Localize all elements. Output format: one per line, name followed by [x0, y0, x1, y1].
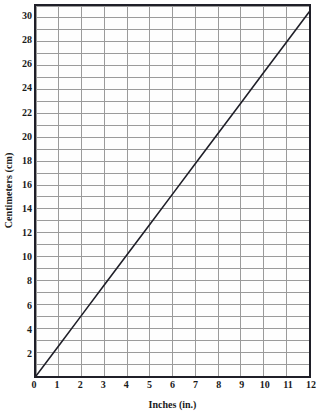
y-axis-tick-label: 26 [22, 59, 32, 69]
y-axis-tick-label: 22 [22, 108, 32, 118]
y-axis-tick-label-group: 24681012141618202224262830 [14, 4, 32, 378]
y-axis-title-label: Centimeters (cm) [4, 152, 15, 228]
y-axis-tick-label: 4 [27, 325, 32, 335]
y-axis-tick-label: 14 [22, 204, 32, 214]
y-axis-tick-label: 18 [22, 156, 32, 166]
chart-container: Centimeters (cm) 24681012141618202224262… [0, 0, 321, 418]
plot-area [34, 4, 311, 378]
x-axis-tick-label: 7 [193, 380, 198, 390]
data-series-layer [36, 6, 309, 376]
x-axis-title: Inches (in.) [34, 399, 311, 410]
y-axis-tick-label: 6 [27, 301, 32, 311]
x-axis-tick-label: 2 [78, 380, 83, 390]
x-axis-tick-label: 5 [147, 380, 152, 390]
x-axis-tick-label: 11 [283, 380, 292, 390]
x-axis-tick-label: 9 [239, 380, 244, 390]
y-axis-tick-label: 8 [27, 276, 32, 286]
x-axis-tick-label: 1 [55, 380, 60, 390]
x-axis-tick-label: 6 [170, 380, 175, 390]
y-axis-tick-label: 10 [22, 252, 32, 262]
y-axis-tick-label: 2 [27, 349, 32, 359]
x-axis-tick-label: 8 [216, 380, 221, 390]
x-axis-tick-label-group: 0123456789101112 [34, 380, 311, 396]
x-axis-tick-label: 3 [101, 380, 106, 390]
y-axis-tick-label: 28 [22, 35, 32, 45]
x-axis-tick-label: 4 [124, 380, 129, 390]
y-axis-tick-label: 16 [22, 180, 32, 190]
y-axis-tick-label: 24 [22, 83, 32, 93]
y-axis-tick-label: 20 [22, 132, 32, 142]
x-axis-tick-label: 10 [260, 380, 270, 390]
x-axis-tick-label: 0 [32, 380, 37, 390]
x-axis-tick-label: 12 [306, 380, 316, 390]
y-axis-tick-label: 12 [22, 228, 32, 238]
data-line [36, 12, 309, 376]
y-axis-tick-label: 30 [22, 11, 32, 21]
